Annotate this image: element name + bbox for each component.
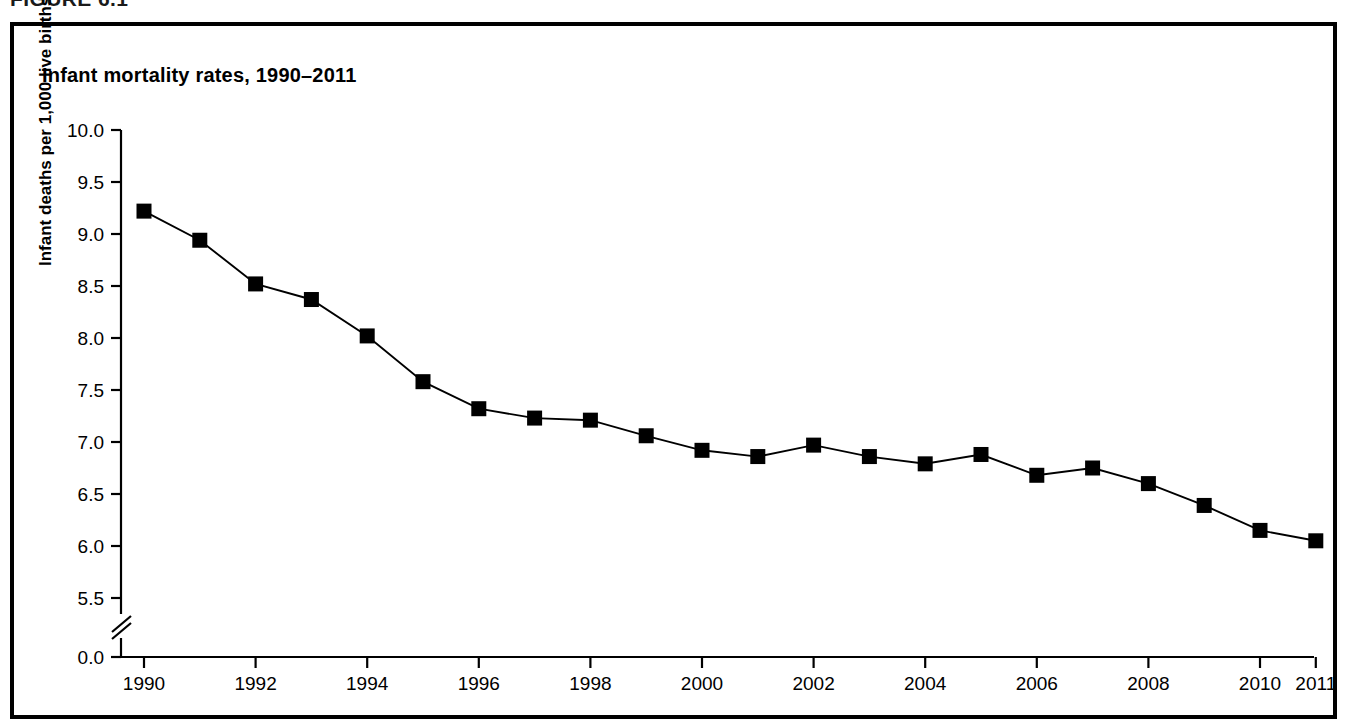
data-point-marker [750, 449, 765, 464]
data-point-marker [248, 276, 263, 291]
x-tick-group: 1990199219941996199820002002200420062008… [123, 657, 1336, 694]
x-tick-label: 1998 [569, 673, 611, 694]
data-point-marker [1308, 533, 1323, 548]
data-point-marker [862, 449, 877, 464]
data-point-marker [583, 413, 598, 428]
axes-group [112, 130, 1314, 657]
data-point-marker [527, 411, 542, 426]
y-tick-label: 7.5 [78, 380, 104, 401]
data-marker-group [137, 204, 1324, 549]
y-tick-label: 10.0 [67, 120, 104, 141]
x-tick-label: 1992 [234, 673, 276, 694]
y-tick-label: 6.5 [78, 484, 104, 505]
data-point-marker [416, 374, 431, 389]
data-point-marker [192, 233, 207, 248]
y-tick-label: 6.0 [78, 536, 104, 557]
y-tick-label: 5.5 [78, 588, 104, 609]
x-tick-label: 2000 [681, 673, 723, 694]
y-tick-label: 9.0 [78, 224, 104, 245]
data-point-marker [360, 328, 375, 343]
data-point-marker [974, 447, 989, 462]
figure-caption: FIGURE 6.1 [10, 0, 128, 11]
x-tick-label: 1996 [458, 673, 500, 694]
y-tick-label: 8.0 [78, 328, 104, 349]
data-point-marker [806, 438, 821, 453]
x-tick-label: 2006 [1016, 673, 1058, 694]
x-tick-label: 2010 [1239, 673, 1281, 694]
data-point-marker [1141, 476, 1156, 491]
data-point-marker [639, 428, 654, 443]
y-tick-label: 8.5 [78, 276, 104, 297]
x-tick-label: 2011 [1295, 673, 1336, 694]
data-point-marker [137, 204, 152, 219]
data-point-marker [1197, 498, 1212, 513]
x-tick-label: 2008 [1127, 673, 1169, 694]
x-tick-label: 2002 [792, 673, 834, 694]
data-point-marker [1253, 523, 1268, 538]
data-point-marker [918, 456, 933, 471]
data-point-marker [695, 443, 710, 458]
data-point-marker [304, 292, 319, 307]
x-tick-label: 1990 [123, 673, 165, 694]
line-chart-plot: 0.05.56.06.57.07.58.08.59.09.510.0199019… [14, 26, 1341, 723]
data-point-marker [1085, 461, 1100, 476]
y-tick-group: 0.05.56.06.57.07.58.08.59.09.510.0 [67, 120, 121, 668]
x-tick-label: 2004 [904, 673, 947, 694]
data-point-marker [1029, 468, 1044, 483]
y-tick-label: 7.0 [78, 432, 104, 453]
y-tick-label: 9.5 [78, 172, 104, 193]
data-line [144, 211, 1316, 541]
y-tick-label: 0.0 [78, 647, 104, 668]
figure-frame: Infant mortality rates, 1990–2011 Infant… [10, 22, 1337, 719]
data-point-marker [471, 401, 486, 416]
y-axis-break-marker [112, 616, 131, 639]
x-tick-label: 1994 [346, 673, 389, 694]
